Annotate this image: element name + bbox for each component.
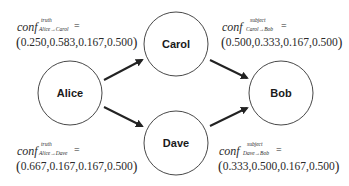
node-dave: Dave: [144, 111, 208, 175]
edge-alice-dave: [104, 107, 142, 126]
annotation-carol-bob: conf subject Carol→Bob = (0.500,0.333,0.…: [221, 18, 342, 50]
conf-prefix: conf: [17, 145, 38, 157]
conf-superscript: truth: [41, 18, 52, 24]
node-bob-label: Bob: [270, 87, 292, 99]
node-alice: Alice: [38, 61, 102, 125]
conf-values: 0.250,0.583,0.167,0.500: [21, 36, 133, 48]
conf-values-row: (0.500,0.333,0.167,0.500): [221, 36, 342, 50]
node-bob: Bob: [249, 61, 313, 125]
conf-values-row: (0.667,0.167,0.167,0.500): [16, 160, 137, 174]
conf-equals: =: [74, 145, 80, 155]
conf-subscript: Alice→Carol: [39, 27, 68, 33]
conf-prefix: conf: [219, 145, 240, 157]
conf-equals: =: [74, 21, 80, 31]
conf-values: 0.500,0.333,0.167,0.500: [226, 36, 338, 48]
conf-superscript: truth: [41, 142, 52, 148]
conf-prefix: conf: [222, 21, 243, 33]
close-paren: ): [133, 159, 138, 174]
node-carol-label: Carol: [162, 38, 190, 50]
edge-dave-bob: [210, 108, 247, 126]
node-alice-label: Alice: [57, 87, 83, 99]
conf-equals: =: [276, 145, 282, 155]
conf-subscript: Carol→Bob: [246, 27, 273, 33]
conf-superscript: subject: [250, 18, 266, 24]
annotation-alice-carol: conf truth Alice→Carol = (0.250,0.583,0.…: [16, 18, 137, 50]
conf-values: 0.667,0.167,0.167,0.500: [21, 160, 133, 172]
conf-superscript: subject: [247, 142, 263, 148]
conf-values: 0.333,0.500,0.167,0.500: [223, 160, 335, 172]
conf-prefix: conf: [17, 21, 38, 33]
conf-formula: conf truth Alice→Dave =: [16, 142, 137, 158]
conf-values-row: (0.250,0.583,0.167,0.500): [16, 36, 137, 50]
edge-alice-carol: [104, 60, 142, 80]
close-paren: ): [133, 35, 138, 50]
node-dave-label: Dave: [163, 137, 189, 149]
conf-subscript: Dave→Bob: [243, 151, 269, 157]
close-paren: ): [338, 35, 343, 50]
conf-values-row: (0.333,0.500,0.167,0.500): [218, 160, 339, 174]
close-paren: ): [335, 159, 340, 174]
annotation-dave-bob: conf subject Dave→Bob = (0.333,0.500,0.1…: [218, 142, 339, 174]
conf-subscript: Alice→Dave: [39, 151, 67, 157]
conf-formula: conf subject Carol→Bob =: [221, 18, 342, 34]
conf-formula: conf subject Dave→Bob =: [218, 142, 339, 158]
node-carol: Carol: [144, 12, 208, 76]
annotation-alice-dave: conf truth Alice→Dave = (0.667,0.167,0.1…: [16, 142, 137, 174]
edge-carol-bob: [210, 60, 247, 78]
conf-formula: conf truth Alice→Carol =: [16, 18, 137, 34]
conf-equals: =: [281, 21, 287, 31]
